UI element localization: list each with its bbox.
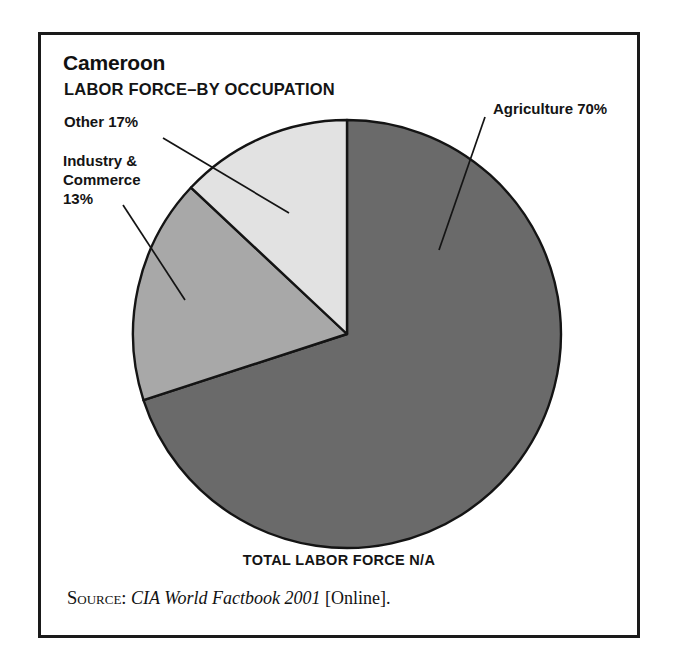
source-line: Source: CIA World Factbook 2001 [Online]… xyxy=(67,588,390,609)
source-title: CIA World Factbook 2001 xyxy=(131,588,321,608)
source-suffix: [Online]. xyxy=(325,588,390,608)
figure-panel: Cameroon LABOR FORCE–BY OCCUPATION Other… xyxy=(38,32,640,638)
pie-chart xyxy=(41,35,637,635)
source-keyword: Source: xyxy=(67,588,127,608)
total-labor-force-caption: TOTAL LABOR FORCE N/A xyxy=(41,552,637,568)
pie-slice-group xyxy=(133,120,561,548)
